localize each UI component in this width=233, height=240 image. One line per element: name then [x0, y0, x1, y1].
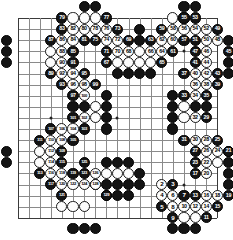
move-stone-74[interactable]: 74 [101, 35, 112, 46]
move-stone-13[interactable]: 13 [190, 190, 201, 201]
black-stone[interactable] [134, 35, 145, 46]
black-stone[interactable] [67, 223, 78, 234]
move-stone-82[interactable]: 82 [67, 24, 78, 35]
black-stone[interactable] [223, 179, 233, 190]
move-stone-50[interactable]: 50 [201, 35, 212, 46]
move-stone-95[interactable]: 95 [79, 68, 90, 79]
move-stone-98[interactable]: 98 [79, 79, 90, 90]
move-stone-61[interactable]: 61 [167, 46, 178, 57]
move-stone-14[interactable]: 14 [201, 201, 212, 212]
black-stone[interactable] [190, 223, 201, 234]
move-stone-49[interactable]: 49 [212, 24, 223, 35]
move-stone-114[interactable]: 114 [45, 157, 56, 168]
black-stone[interactable] [123, 179, 134, 190]
move-stone-41[interactable]: 41 [190, 57, 201, 68]
move-stone-20[interactable]: 20 [201, 168, 212, 179]
move-stone-44[interactable]: 44 [201, 57, 212, 68]
move-stone-25[interactable]: 25 [212, 135, 223, 146]
move-stone-113[interactable]: 113 [34, 168, 45, 179]
move-stone-23[interactable]: 23 [190, 157, 201, 168]
move-stone-57[interactable]: 57 [178, 35, 189, 46]
move-stone-21[interactable]: 21 [223, 146, 233, 157]
move-stone-100[interactable]: 100 [79, 90, 90, 101]
white-stone[interactable] [212, 157, 223, 168]
move-stone-129[interactable]: 129 [101, 190, 112, 201]
move-stone-31[interactable]: 31 [178, 135, 189, 146]
move-stone-67[interactable]: 67 [101, 57, 112, 68]
move-stone-93[interactable]: 93 [56, 79, 67, 90]
move-stone-88[interactable]: 88 [56, 46, 67, 57]
black-stone[interactable] [167, 123, 178, 134]
move-stone-65[interactable]: 65 [156, 57, 167, 68]
move-stone-81[interactable]: 81 [79, 35, 90, 46]
black-stone[interactable] [134, 179, 145, 190]
move-stone-84[interactable]: 84 [67, 35, 78, 46]
move-stone-30[interactable]: 30 [190, 135, 201, 146]
black-stone[interactable] [123, 190, 134, 201]
move-stone-116[interactable]: 116 [45, 168, 56, 179]
move-stone-68[interactable]: 68 [123, 46, 134, 57]
move-stone-104[interactable]: 104 [67, 123, 78, 134]
move-stone-53[interactable]: 53 [190, 12, 201, 23]
white-stone[interactable] [90, 12, 101, 23]
move-stone-27[interactable]: 27 [190, 146, 201, 157]
white-stone[interactable] [134, 46, 145, 57]
move-stone-38[interactable]: 38 [201, 79, 212, 90]
move-stone-10[interactable]: 10 [178, 201, 189, 212]
move-stone-24[interactable]: 24 [212, 146, 223, 157]
black-stone[interactable] [167, 112, 178, 123]
black-stone[interactable] [1, 57, 12, 68]
move-stone-101[interactable]: 101 [67, 112, 78, 123]
move-stone-7[interactable]: 7 [178, 190, 189, 201]
black-stone[interactable] [134, 24, 145, 35]
black-stone[interactable] [90, 223, 101, 234]
move-stone-123[interactable]: 123 [79, 168, 90, 179]
move-stone-112[interactable]: 112 [45, 146, 56, 157]
move-stone-36[interactable]: 36 [190, 79, 201, 90]
move-stone-60[interactable]: 60 [167, 35, 178, 46]
white-stone[interactable] [90, 112, 101, 123]
move-stone-121[interactable]: 121 [56, 190, 67, 201]
black-stone[interactable] [90, 1, 101, 12]
move-stone-70[interactable]: 70 [112, 46, 123, 57]
move-stone-83[interactable]: 83 [56, 24, 67, 35]
move-stone-37[interactable]: 37 [178, 68, 189, 79]
move-stone-90[interactable]: 90 [56, 57, 67, 68]
move-stone-103[interactable]: 103 [79, 123, 90, 134]
black-stone[interactable] [190, 1, 201, 12]
move-stone-117[interactable]: 117 [45, 179, 56, 190]
move-stone-107[interactable]: 107 [45, 123, 56, 134]
move-stone-59[interactable]: 59 [156, 24, 167, 35]
move-stone-126[interactable]: 126 [90, 168, 101, 179]
move-stone-58[interactable]: 58 [167, 24, 178, 35]
move-stone-128[interactable]: 128 [90, 179, 101, 190]
white-stone[interactable] [90, 101, 101, 112]
move-stone-2[interactable]: 2 [156, 179, 167, 190]
move-stone-56[interactable]: 56 [178, 24, 189, 35]
move-stone-122[interactable]: 122 [67, 179, 78, 190]
move-stone-52[interactable]: 52 [201, 24, 212, 35]
move-stone-99[interactable]: 99 [90, 79, 101, 90]
white-stone[interactable] [123, 57, 134, 68]
move-stone-55[interactable]: 55 [178, 12, 189, 23]
move-stone-11[interactable]: 11 [201, 212, 212, 223]
black-stone[interactable] [223, 157, 233, 168]
move-stone-34[interactable]: 34 [190, 90, 201, 101]
black-stone[interactable] [167, 90, 178, 101]
move-stone-4[interactable]: 4 [156, 190, 167, 201]
black-stone[interactable] [223, 68, 233, 79]
white-stone[interactable] [79, 12, 90, 23]
white-stone[interactable] [67, 201, 78, 212]
move-stone-106[interactable]: 106 [56, 123, 67, 134]
white-stone[interactable] [112, 168, 123, 179]
black-stone[interactable] [123, 68, 134, 79]
move-stone-91[interactable]: 91 [67, 57, 78, 68]
black-stone[interactable] [134, 68, 145, 79]
white-stone[interactable] [178, 212, 189, 223]
black-stone[interactable] [79, 1, 90, 12]
black-stone[interactable] [223, 57, 233, 68]
move-stone-54[interactable]: 54 [190, 24, 201, 35]
black-stone[interactable] [79, 101, 90, 112]
black-stone[interactable] [112, 157, 123, 168]
black-stone[interactable] [79, 223, 90, 234]
